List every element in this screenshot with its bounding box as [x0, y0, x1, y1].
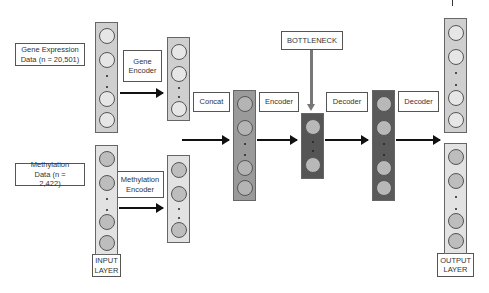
methylation-encoder-layer — [167, 155, 190, 243]
ellipsis-dot — [383, 143, 385, 145]
node — [305, 157, 321, 173]
ellipsis-dot — [455, 208, 457, 210]
ellipsis-dot — [312, 141, 314, 143]
node — [171, 186, 187, 202]
node — [171, 162, 187, 178]
node — [171, 66, 187, 82]
ellipsis-dot — [455, 196, 457, 198]
ellipsis-dot — [455, 84, 457, 86]
node — [376, 120, 392, 136]
ellipsis-dot — [106, 86, 108, 88]
node — [237, 120, 253, 136]
ellipsis-dot — [106, 209, 108, 211]
ellipsis-dot — [178, 96, 180, 98]
node — [376, 180, 392, 196]
arrow-gene-to-encoder — [120, 92, 163, 94]
node — [99, 151, 115, 167]
node — [99, 214, 115, 230]
node — [99, 235, 115, 251]
node — [448, 233, 464, 249]
encoder-label: Encoder — [259, 92, 299, 112]
ellipsis-dot — [383, 154, 385, 156]
node — [448, 213, 464, 229]
node — [171, 222, 187, 238]
methylation-output-layer — [444, 143, 467, 254]
input-layer-label: INPUT LAYER — [92, 254, 121, 277]
node — [376, 160, 392, 176]
output-layer-label: OUTPUT LAYER — [437, 253, 474, 277]
page-edge-mark — [452, 0, 453, 6]
node — [99, 28, 115, 44]
node — [448, 25, 464, 41]
bottleneck-layer — [301, 113, 324, 179]
node — [237, 96, 253, 112]
node — [99, 91, 115, 107]
gene-output-layer — [444, 18, 467, 133]
arrow-bottleneck-pointer — [310, 50, 313, 105]
arrow-decoder-to-output — [396, 139, 440, 141]
ellipsis-dot — [178, 217, 180, 219]
node — [448, 149, 464, 165]
methylation-input-layer — [95, 145, 118, 255]
ellipsis-dot — [312, 150, 314, 152]
node — [237, 160, 253, 176]
methylation-data-label: Methylation Data (n = 2,422) — [15, 163, 85, 186]
bottleneck-label: BOTTLENECK — [281, 31, 343, 50]
ellipsis-dot — [106, 198, 108, 200]
autoencoder-diagram: Gene Expression Data (n = 20,501) Methyl… — [0, 0, 489, 293]
ellipsis-dot — [178, 208, 180, 210]
arrow-concat-to-bottleneck — [257, 139, 297, 141]
methylation-encoder-label: Methylation Encoder — [116, 171, 164, 198]
decoder-label-1: Decoder — [326, 92, 368, 112]
gene-encoder-label: Gene Encoder — [123, 50, 162, 82]
ellipsis-dot — [455, 72, 457, 74]
arrow-methylation-to-encoder — [119, 207, 163, 209]
node — [448, 112, 464, 128]
concat-layer — [233, 90, 256, 201]
arrow-bottleneck-to-decoder — [325, 139, 368, 141]
node — [99, 52, 115, 68]
node — [305, 119, 321, 135]
node — [376, 96, 392, 112]
gene-input-layer — [95, 22, 118, 133]
node — [171, 44, 187, 60]
concat-label: Concat — [193, 92, 230, 112]
decoder-layer — [372, 90, 395, 201]
ellipsis-dot — [244, 154, 246, 156]
ellipsis-dot — [106, 75, 108, 77]
decoder-label-2: Decoder — [398, 91, 439, 112]
node — [448, 90, 464, 106]
arrow-to-concat — [182, 139, 229, 141]
node — [99, 175, 115, 191]
ellipsis-dot — [244, 143, 246, 145]
node — [237, 180, 253, 196]
ellipsis-dot — [178, 87, 180, 89]
node — [448, 49, 464, 65]
node — [99, 112, 115, 128]
node — [171, 101, 187, 117]
gene-expression-label: Gene Expression Data (n = 20,501) — [15, 43, 85, 66]
node — [448, 173, 464, 189]
gene-encoder-layer — [167, 37, 190, 121]
